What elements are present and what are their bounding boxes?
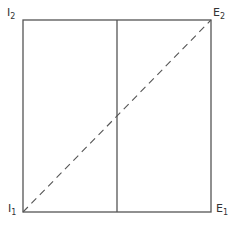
corner-label-top-left: I2 xyxy=(7,7,15,21)
corner-label-top-right: E2 xyxy=(213,7,225,21)
corner-subscript: 2 xyxy=(10,12,15,21)
corner-label-bottom-right: E1 xyxy=(216,203,228,217)
corner-subscript: 1 xyxy=(11,208,16,217)
corner-letter: E xyxy=(213,6,220,19)
edgeworth-box-diagram xyxy=(0,0,235,230)
corner-subscript: 1 xyxy=(223,208,228,217)
corner-label-bottom-left: I1 xyxy=(8,203,16,217)
corner-subscript: 2 xyxy=(220,12,225,21)
corner-letter: E xyxy=(216,202,223,215)
